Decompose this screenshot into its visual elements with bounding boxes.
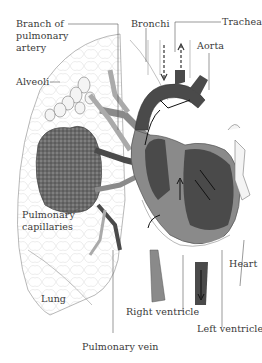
label-left-ventricle: Left ventricle (197, 323, 262, 334)
label-right-ventricle: Right ventricle (126, 306, 199, 317)
label-branch-of-pulmonary-artery-3: artery (16, 42, 46, 53)
label-pulmonary-capillaries-2: capillaries (22, 221, 73, 232)
label-branch-of-pulmonary-artery-1: Branch of (16, 18, 64, 29)
label-bronchi: Bronchi (131, 18, 170, 29)
aortic-arch (135, 70, 208, 130)
label-aorta: Aorta (197, 40, 224, 51)
label-pulmonary-capillaries-1: Pulmonary (22, 209, 75, 220)
label-branch-of-pulmonary-artery-2: pulmonary (16, 30, 69, 41)
label-trachea: Trachea (222, 16, 262, 27)
heart (131, 130, 240, 246)
label-lung: Lung (41, 293, 66, 304)
label-pulmonary-vein: Pulmonary vein (82, 341, 159, 352)
label-alveoli: Alveoli (16, 76, 49, 87)
pulmonary-capillaries (36, 126, 102, 212)
descending-vessels (150, 250, 208, 305)
label-heart: Heart (229, 258, 257, 269)
